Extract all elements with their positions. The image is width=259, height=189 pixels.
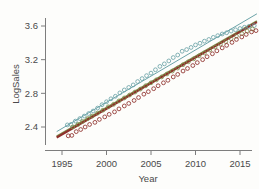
data-points-group [65,24,257,138]
series-red [66,29,258,138]
x-tick-labels: 19952000200520102015 [51,158,250,169]
data-point [146,90,150,94]
data-point [154,68,158,72]
data-point [167,59,171,63]
data-point [198,41,202,45]
data-point [185,48,189,52]
data-point [166,78,170,82]
plot-area: 2.42.83.23.6 19952000200520102015 LogSal… [0,0,259,189]
data-point [79,128,83,132]
data-point [176,53,180,57]
data-point [171,75,175,79]
fit-lines-group [57,14,257,138]
x-axis [45,151,252,156]
x-tick-label: 2015 [229,158,250,169]
data-point [220,46,224,50]
data-point [207,38,211,42]
data-point [140,77,144,81]
x-tick-marks [62,151,240,156]
data-point [180,49,184,53]
data-point [149,71,153,75]
data-point [186,67,190,71]
data-point [189,46,193,50]
x-tick-label: 2000 [96,158,117,169]
y-tick-marks [41,26,46,127]
data-point [234,28,238,32]
data-point [181,69,185,73]
y-tick-label: 3.2 [25,54,38,65]
data-point [162,62,166,66]
data-point [142,92,146,96]
data-point [145,74,149,78]
data-point [83,125,87,129]
fit-line-olive [57,21,257,136]
data-point [195,61,199,65]
data-point [205,55,209,59]
data-point [211,52,215,56]
data-point [229,29,233,33]
x-tick-label: 1995 [51,158,72,169]
data-point [132,99,136,103]
data-point [136,80,140,84]
data-point [230,41,234,45]
data-point [113,110,117,114]
data-point [107,112,111,116]
data-point [88,123,92,127]
y-axis-title: LogSales [10,64,21,104]
data-point [137,96,141,100]
data-point [225,43,229,47]
data-point [194,43,198,47]
data-point [211,35,215,39]
y-tick-label: 3.6 [25,20,38,31]
data-point [152,87,156,91]
data-point [93,120,97,124]
data-point [171,56,175,60]
scatter-chart: 2.42.83.23.6 19952000200520102015 LogSal… [0,0,259,189]
data-point [201,58,205,62]
data-point [127,102,131,106]
data-point [156,84,160,88]
y-tick-label: 2.4 [25,121,38,132]
data-point [103,115,107,119]
data-point [117,107,121,111]
x-tick-label: 2010 [185,158,206,169]
data-point [74,130,78,134]
data-point [191,64,195,68]
x-axis-title: Year [138,173,157,184]
y-tick-labels: 2.42.83.23.6 [25,20,38,132]
data-point [158,65,162,69]
data-point [215,49,219,53]
x-tick-label: 2005 [140,158,161,169]
data-point [254,29,258,33]
data-point [162,81,166,85]
data-point [97,118,101,122]
data-point [203,39,207,43]
data-point [122,104,126,108]
data-point [176,73,180,77]
y-axis [41,18,46,145]
y-tick-label: 2.8 [25,88,38,99]
